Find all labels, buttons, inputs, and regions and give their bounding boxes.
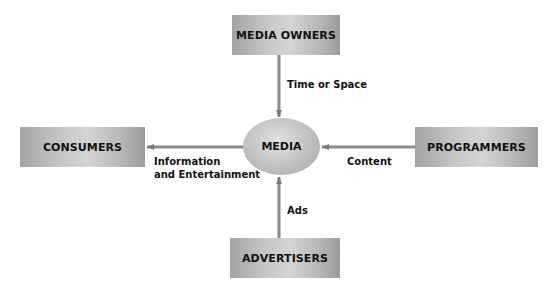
time-or-space-label: Time or Space (287, 78, 367, 91)
consumers-label: CONSUMERS (43, 141, 122, 154)
ads-label: Ads (287, 204, 308, 217)
advertisers-node: ADVERTISERS (230, 238, 340, 278)
entertainment-line: and Entertainment (154, 168, 260, 181)
media-label: MEDIA (261, 140, 301, 153)
programmers-label: PROGRAMMERS (427, 141, 526, 154)
media-owners-node: MEDIA OWNERS (232, 15, 340, 55)
media-owners-label: MEDIA OWNERS (236, 29, 336, 42)
consumers-node: CONSUMERS (20, 127, 145, 167)
information-line: Information (154, 155, 260, 168)
programmers-node: PROGRAMMERS (415, 127, 538, 167)
advertisers-label: ADVERTISERS (242, 252, 328, 265)
information-entertainment-label: Information and Entertainment (154, 155, 260, 181)
content-label: Content (347, 155, 392, 168)
